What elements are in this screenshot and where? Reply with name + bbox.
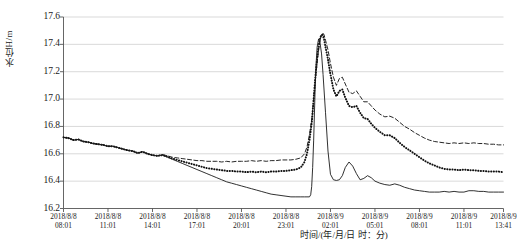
x-tick-label: 2018/8/913:41 [478, 212, 529, 230]
plot-area [0, 0, 529, 246]
series-solid [64, 39, 504, 197]
x-axis-label: 时间/(年/月/日 时：分) [300, 228, 388, 241]
x-tick-date: 2018/8/9 [478, 212, 529, 221]
x-tick-time: 13:41 [478, 221, 529, 230]
water-level-chart: 水位H/m 17.617.417.217.016.816.616.416.2 2… [0, 0, 529, 246]
series-dashed [64, 33, 504, 162]
series-dotted [64, 35, 504, 172]
